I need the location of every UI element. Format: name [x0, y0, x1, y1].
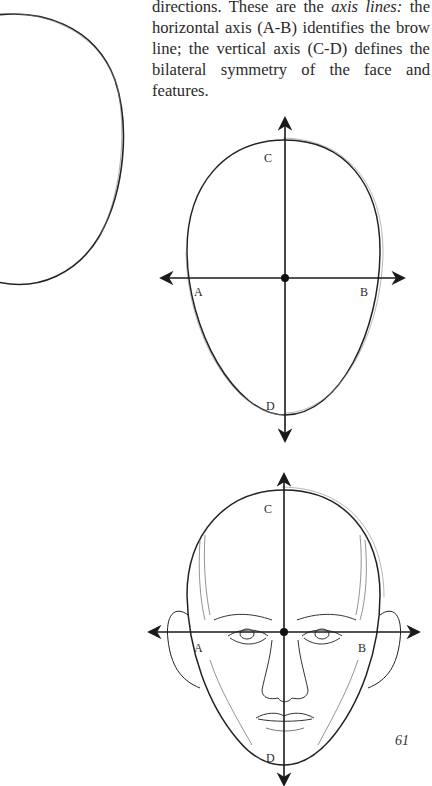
- left-oval-figure: [0, 14, 123, 285]
- face-diagram: C A B D: [150, 475, 418, 784]
- label-d: D: [266, 399, 275, 413]
- label-c: C: [264, 502, 272, 516]
- illustrations: C A B D: [0, 0, 432, 786]
- label-a: A: [194, 285, 203, 299]
- label-d: D: [266, 751, 275, 765]
- label-b: B: [358, 641, 366, 655]
- label-a: A: [194, 641, 203, 655]
- axis-diagram: C A B D: [162, 119, 403, 440]
- label-b: B: [360, 285, 368, 299]
- axis-center-point: [280, 628, 288, 636]
- label-c: C: [264, 151, 272, 165]
- page-number: 61: [395, 733, 409, 749]
- axis-center-point: [281, 274, 289, 282]
